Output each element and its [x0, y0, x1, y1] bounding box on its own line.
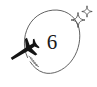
sparkle-large-icon [71, 13, 85, 28]
sparkle-small-icon [82, 6, 92, 17]
center-number: 6 [40, 29, 64, 55]
sparkle-large-path [71, 13, 85, 28]
sparkle-small-path [82, 6, 92, 17]
airplane-circle-illustration: 6 [0, 0, 97, 87]
